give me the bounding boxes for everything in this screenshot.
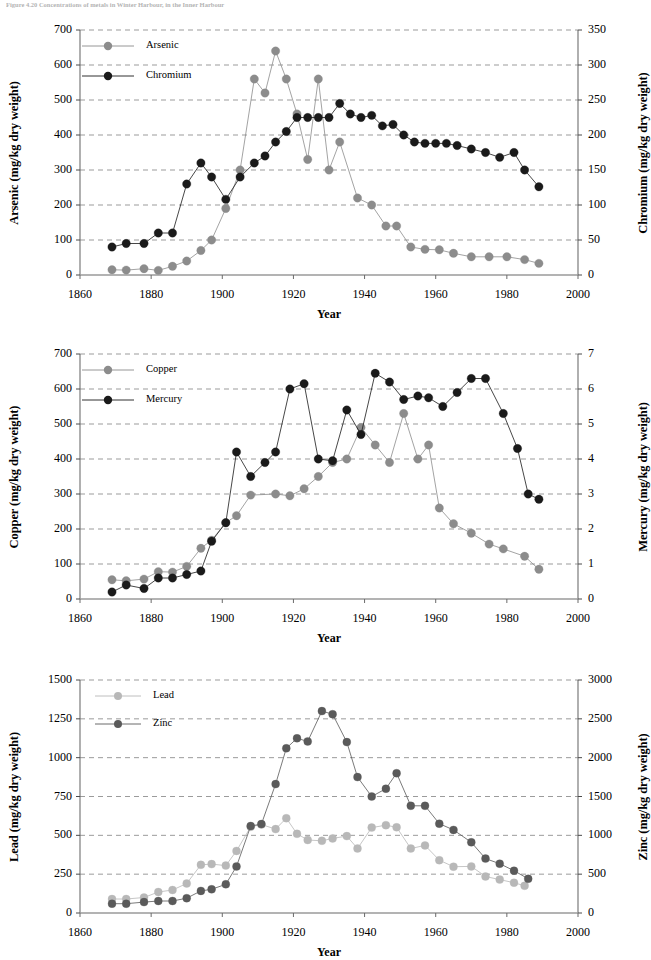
y-right-tick-label: 1500	[588, 789, 612, 804]
y-right-tick-label: 0	[588, 591, 594, 606]
legend-label-chromium: Chromium	[146, 69, 192, 80]
y-right-tick-label: 200	[588, 127, 606, 142]
y-left-tick-label: 300	[26, 162, 72, 177]
series-zinc	[108, 707, 532, 908]
x-tick-label: 1960	[406, 287, 466, 302]
x-tick-label: 1960	[406, 925, 466, 940]
chart-svg-0	[0, 8, 651, 328]
y-right-tick-label: 250	[588, 92, 606, 107]
y-left-tick-label: 500	[26, 92, 72, 107]
legend-label-copper: Copper	[146, 363, 177, 374]
x-tick-label: 2000	[548, 925, 608, 940]
plot-area-1: ArsenicChromium0100200300400500600700050…	[0, 8, 651, 328]
x-tick-label: 2000	[548, 287, 608, 302]
y-right-tick-label: 2	[588, 521, 594, 536]
x-tick-label: 1860	[50, 925, 110, 940]
y-left-tick-label: 700	[26, 346, 72, 361]
y-right-tick-label: 350	[588, 22, 606, 37]
y-left-tick-label: 600	[26, 57, 72, 72]
y-left-tick-label: 400	[26, 451, 72, 466]
y-left-tick-label: 0	[26, 905, 72, 920]
chart-panel-lead-zinc: LeadZinc02505007501000125015000500100015…	[0, 662, 651, 951]
y-right-tick-label: 1000	[588, 827, 612, 842]
y-left-tick-label: 750	[26, 789, 72, 804]
y-left-tick-label: 1000	[26, 750, 72, 765]
x-tick-label: 1920	[263, 287, 323, 302]
x-tick-label: 1920	[263, 925, 323, 940]
y-left-tick-label: 100	[26, 232, 72, 247]
x-tick-label: 1900	[192, 287, 252, 302]
chart-svg-2	[0, 662, 651, 951]
series-copper	[108, 409, 543, 585]
plot-area-3: LeadZinc02505007501000125015000500100015…	[0, 662, 651, 951]
y-right-tick-label: 5	[588, 416, 594, 431]
plot-area-2: CopperMercury010020030040050060070001234…	[0, 332, 651, 662]
y-left-tick-label: 200	[26, 521, 72, 536]
y-right-axis-title: Mercury (mg/kg dry weight)	[636, 402, 651, 552]
y-right-tick-label: 7	[588, 346, 594, 361]
y-right-axis-title: Zinc (mg/kg dry weight)	[636, 733, 651, 860]
y-left-tick-label: 300	[26, 486, 72, 501]
y-right-tick-label: 100	[588, 197, 606, 212]
chart-panel-arsenic-chromium: ArsenicChromium0100200300400500600700050…	[0, 8, 651, 328]
y-right-tick-label: 300	[588, 57, 606, 72]
y-right-tick-label: 150	[588, 162, 606, 177]
y-left-tick-label: 600	[26, 381, 72, 396]
x-tick-label: 1880	[121, 611, 181, 626]
y-right-tick-label: 0	[588, 905, 594, 920]
y-right-tick-label: 2500	[588, 711, 612, 726]
series-lead	[108, 814, 529, 903]
x-tick-label: 1860	[50, 287, 110, 302]
y-right-tick-label: 4	[588, 451, 594, 466]
y-left-axis-title: Copper (mg/kg dry weight)	[7, 405, 22, 548]
x-tick-label: 1980	[477, 925, 537, 940]
x-tick-label: 2000	[548, 611, 608, 626]
x-tick-label: 1880	[121, 925, 181, 940]
y-left-tick-label: 250	[26, 866, 72, 881]
x-tick-label: 1900	[192, 611, 252, 626]
y-left-tick-label: 0	[26, 267, 72, 282]
legend-label-lead: Lead	[153, 689, 174, 700]
y-left-tick-label: 700	[26, 22, 72, 37]
x-tick-label: 1960	[406, 611, 466, 626]
y-left-axis-title: Arsenic (mg/kg dry weight)	[7, 81, 22, 225]
x-tick-label: 1940	[335, 925, 395, 940]
legend-label-zinc: Zinc	[153, 717, 172, 728]
x-tick-label: 1980	[477, 611, 537, 626]
y-right-tick-label: 6	[588, 381, 594, 396]
y-left-axis-title: Lead (mg/kg dry weight)	[7, 732, 22, 862]
y-right-tick-label: 500	[588, 866, 606, 881]
y-right-tick-label: 2000	[588, 750, 612, 765]
y-right-tick-label: 3	[588, 486, 594, 501]
x-tick-label: 1860	[50, 611, 110, 626]
y-right-axis-title: Chromium (mg/kg dry weight)	[636, 72, 651, 233]
y-left-tick-label: 1500	[26, 672, 72, 687]
legend-label-arsenic: Arsenic	[146, 39, 179, 50]
x-tick-label: 1940	[335, 611, 395, 626]
x-tick-label: 1940	[335, 287, 395, 302]
x-axis-title: Year	[269, 307, 389, 322]
legend-label-mercury: Mercury	[146, 393, 182, 404]
x-tick-label: 1880	[121, 287, 181, 302]
x-tick-label: 1980	[477, 287, 537, 302]
y-right-tick-label: 1	[588, 556, 594, 571]
y-right-tick-label: 3000	[588, 672, 612, 687]
y-right-tick-label: 0	[588, 267, 594, 282]
y-left-tick-label: 400	[26, 127, 72, 142]
y-left-tick-label: 500	[26, 827, 72, 842]
chart-panel-copper-mercury: CopperMercury010020030040050060070001234…	[0, 332, 651, 662]
y-left-tick-label: 200	[26, 197, 72, 212]
x-tick-label: 1900	[192, 925, 252, 940]
y-left-tick-label: 0	[26, 591, 72, 606]
x-tick-label: 1920	[263, 611, 323, 626]
y-right-tick-label: 50	[588, 232, 600, 247]
y-left-tick-label: 1250	[26, 711, 72, 726]
y-left-tick-label: 500	[26, 416, 72, 431]
series-chromium	[108, 99, 543, 251]
x-axis-title: Year	[269, 945, 389, 960]
x-axis-title: Year	[269, 631, 389, 646]
y-left-tick-label: 100	[26, 556, 72, 571]
